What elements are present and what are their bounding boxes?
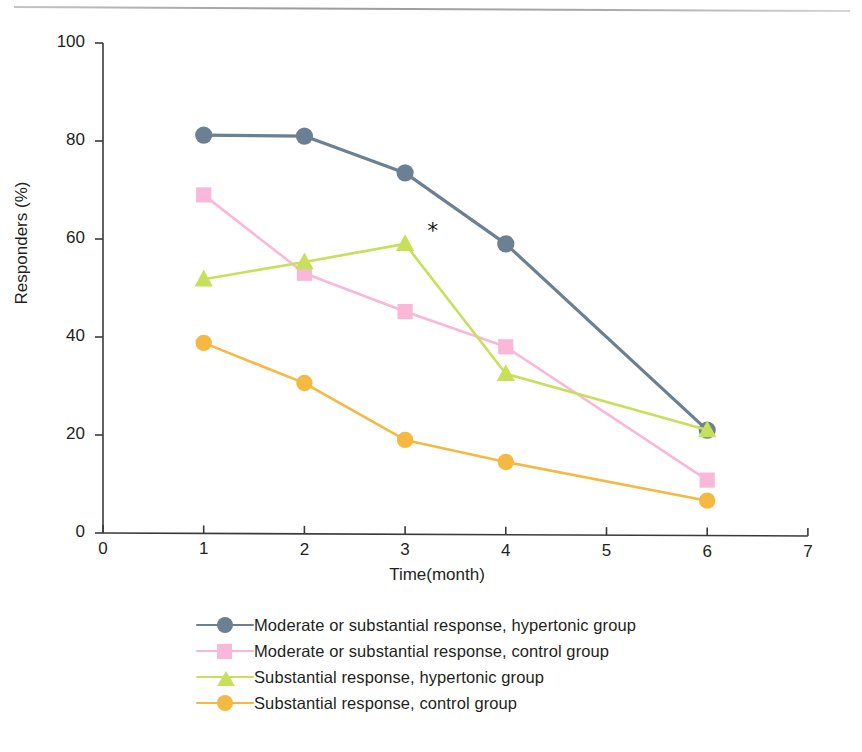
data-point-marker (699, 492, 715, 508)
data-point-marker (398, 304, 413, 319)
data-point-marker (396, 234, 414, 251)
y-tick-label: 100 (25, 32, 85, 52)
data-point-marker (296, 128, 313, 145)
legend-marker (217, 695, 233, 711)
significance-star-annotation: * (427, 222, 438, 240)
x-tick-label: 3 (385, 540, 425, 560)
series-3 (195, 234, 717, 437)
data-point-marker (497, 235, 514, 252)
x-axis-title-text: Time(month) (389, 565, 485, 584)
x-tick-label: 6 (687, 542, 727, 562)
data-point-marker (196, 187, 211, 202)
legend-item-4: Substantial response, control group (196, 690, 816, 716)
y-tick-label: 80 (25, 130, 85, 150)
legend-marker-shape (217, 695, 233, 711)
legend-marker-circle-icon (196, 693, 254, 713)
y-tick-label: 0 (25, 522, 85, 542)
data-point-marker (397, 432, 413, 448)
x-tick-label: 0 (83, 539, 123, 559)
legend-item-label: Substantial response, hypertonic group (254, 668, 544, 687)
x-tick-label: 1 (184, 539, 224, 559)
data-point-marker (296, 375, 312, 391)
data-point-marker (196, 335, 212, 351)
legend-item-label: Moderate or substantial response, contro… (254, 642, 609, 661)
series-line (204, 343, 708, 501)
legend-marker-shape (217, 671, 235, 686)
x-tick-label: 7 (788, 542, 828, 562)
data-point-marker (397, 164, 414, 181)
figure-panel: Responders (%) Time(month) 020406080100 … (0, 0, 862, 752)
legend-marker-shape (217, 644, 232, 659)
data-point-marker (195, 127, 212, 144)
x-tick-label: 4 (486, 541, 526, 561)
series-line (204, 195, 708, 480)
legend-marker-circle-icon (196, 615, 254, 635)
chart-legend: Moderate or substantial response, hypert… (196, 612, 816, 716)
series-1 (195, 127, 716, 439)
legend-item-label: Substantial response, control group (254, 694, 517, 713)
x-axis-line (103, 533, 808, 536)
y-tick-label: 20 (25, 424, 85, 444)
legend-item-label: Moderate or substantial response, hypert… (254, 616, 636, 635)
y-tick-label: 60 (25, 228, 85, 248)
series-group (195, 127, 717, 509)
legend-marker-square-icon (196, 641, 254, 661)
x-axis-title: Time(month) (0, 565, 862, 585)
data-point-marker (700, 472, 715, 487)
data-point-marker (498, 339, 513, 354)
legend-marker-shape (217, 617, 233, 633)
x-tick-label: 5 (587, 541, 627, 561)
legend-item-3: Substantial response, hypertonic group (196, 664, 816, 690)
series-4 (196, 335, 716, 509)
legend-item-2: Moderate or substantial response, contro… (196, 638, 816, 664)
x-tick-label: 2 (284, 540, 324, 560)
y-tick-label: 40 (25, 326, 85, 346)
legend-marker (217, 669, 235, 686)
data-point-marker (498, 454, 514, 470)
legend-item-1: Moderate or substantial response, hypert… (196, 612, 816, 638)
legend-marker (217, 617, 233, 633)
series-line (204, 135, 708, 430)
legend-marker (217, 643, 232, 659)
legend-marker-triangle-icon (196, 667, 254, 687)
axes-group (95, 43, 808, 536)
series-2 (196, 187, 715, 487)
series-line (204, 244, 708, 430)
